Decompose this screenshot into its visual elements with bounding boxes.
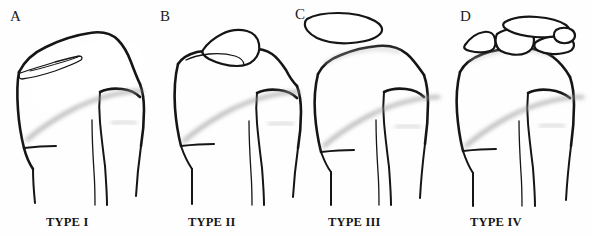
panel-d-letter: D <box>460 8 471 25</box>
fracture-classification-figure: A TYPE I B TYPE II C TYPE III D TYPE IV <box>0 0 592 236</box>
panel-c-letter: C <box>295 6 305 23</box>
panel-c-caption: TYPE III <box>328 215 381 230</box>
panel-d: D TYPE IV <box>438 0 592 236</box>
panel-b-letter: B <box>160 8 170 25</box>
panel-a: A TYPE I <box>0 0 148 236</box>
panel-a-caption: TYPE I <box>46 215 89 230</box>
panel-b: B TYPE II <box>148 0 288 236</box>
panel-b-caption: TYPE II <box>188 215 236 230</box>
panel-a-letter: A <box>10 8 21 25</box>
panel-c: C TYPE III <box>288 0 438 236</box>
panel-d-caption: TYPE IV <box>470 215 522 230</box>
